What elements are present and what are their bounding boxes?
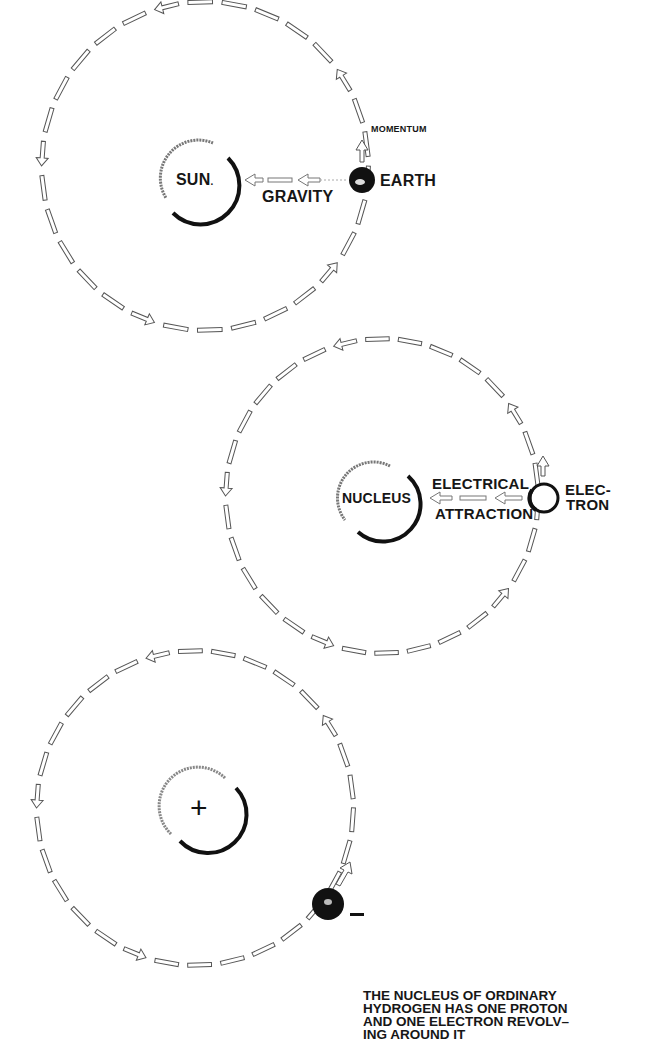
orbit-dash <box>303 348 326 362</box>
orbit-dash <box>352 98 364 123</box>
electron-label-line2: TRON <box>566 497 609 512</box>
orbit-dash <box>398 337 422 345</box>
orbit-dash <box>220 956 244 965</box>
orbit-dash <box>188 963 212 968</box>
orbit-direction-arrow-icon <box>122 943 149 963</box>
orbit-dash <box>71 906 90 926</box>
earth-label: EARTH <box>380 173 436 189</box>
orbit-dash <box>227 440 237 464</box>
orbit-dash <box>231 320 256 330</box>
orbit-dash <box>523 431 535 455</box>
orbit-dash <box>54 76 69 100</box>
orbit-dash <box>342 646 366 654</box>
solar-diagram <box>36 0 375 332</box>
orbit-dash <box>438 631 461 645</box>
orbit-dash <box>53 879 69 901</box>
orbit-direction-arrow-icon <box>31 784 45 808</box>
orbit-dash <box>94 27 116 45</box>
sun-label-dot: . <box>210 176 213 187</box>
orbit-direction-arrow-icon <box>332 335 358 352</box>
orbit-dash <box>115 660 138 674</box>
orbit-direction-arrow-icon <box>504 400 527 426</box>
orbit-dash <box>88 675 109 693</box>
nucleus-label: NUCLEUS <box>342 491 411 505</box>
orbit-dash <box>338 743 350 767</box>
orbit-dash <box>286 22 309 39</box>
electrical-label: ELECTRICAL <box>432 476 529 491</box>
orbit-dash <box>276 363 297 381</box>
orbit-dash <box>71 49 90 70</box>
orbit-dash <box>243 656 267 669</box>
orbit-direction-arrow-icon <box>220 472 234 496</box>
orbit-dash <box>77 269 97 290</box>
orbit-direction-arrow-icon <box>145 647 171 664</box>
orbit-dash <box>188 0 213 4</box>
caption-line: ING AROUND IT <box>363 1028 569 1041</box>
orbit-dash <box>38 752 49 776</box>
orbit-dash <box>341 232 356 256</box>
orbit-dash <box>350 808 356 832</box>
orbit-dash <box>300 690 319 710</box>
orbit-dash <box>430 344 453 357</box>
orbit-dash <box>294 287 316 305</box>
figure-caption: THE NUCLEUS OF ORDINARY HYDROGEN HAS ONE… <box>363 989 569 1041</box>
orbit-dash <box>252 943 275 957</box>
orbit-dash <box>155 958 179 966</box>
orbit-dash <box>467 611 488 629</box>
orbit-dash <box>45 209 57 234</box>
orbit-dash <box>254 384 272 405</box>
sun-label-text: SUN <box>176 171 210 188</box>
gravity-arrow <box>245 174 348 186</box>
orbit-direction-arrow-icon <box>332 66 355 93</box>
electron-minus-symbol <box>350 913 364 916</box>
attraction-arrow <box>430 492 522 504</box>
orbit-dash <box>222 1 247 9</box>
orbit-dash <box>459 358 481 375</box>
orbit-dash <box>485 378 504 398</box>
figure-canvas <box>0 0 655 1053</box>
orbit-direction-arrow-icon <box>129 307 156 327</box>
orbit-dash <box>273 670 295 687</box>
orbit-dash <box>35 817 42 841</box>
orbit-dash <box>348 775 355 799</box>
orbit-dash <box>197 328 222 333</box>
orbit-dash <box>255 8 279 21</box>
orbit-dash <box>407 644 431 653</box>
orbit-dash <box>281 924 302 942</box>
orbit-dash <box>260 594 279 614</box>
orbit-dash <box>375 651 399 656</box>
orbit-dash <box>366 337 390 342</box>
orbit-dash <box>48 722 63 745</box>
orbit-dash <box>122 11 146 25</box>
orbit-direction-arrow-icon <box>153 0 180 15</box>
sun-label: SUN. <box>176 172 213 188</box>
orbit-dash <box>512 559 527 582</box>
momentum-label: MOMENTUM <box>371 125 427 134</box>
orbit-dash <box>237 410 252 433</box>
gravity-label: GRAVITY <box>262 189 333 205</box>
orbit-dash <box>356 200 367 225</box>
orbit-dash <box>224 505 231 529</box>
orbit-dash <box>283 617 305 634</box>
orbit-direction-arrow-icon <box>317 259 342 286</box>
orbit-dash <box>264 307 288 321</box>
orbit-dash <box>40 849 52 873</box>
orbit-direction-arrow-icon <box>36 141 50 167</box>
orbit-dash <box>229 537 241 561</box>
orbit-dash <box>313 42 333 63</box>
orbit-dash <box>58 241 74 264</box>
orbit-dash <box>95 929 117 946</box>
orbit-dash <box>163 323 188 331</box>
orbit-dash <box>40 175 47 200</box>
orbit-dash <box>65 696 83 717</box>
orbit-dash <box>241 567 257 589</box>
orbit-dash <box>178 649 202 654</box>
orbit-dash <box>102 293 125 310</box>
electron-label-line1: ELEC- <box>565 482 611 497</box>
orbit-dash <box>341 840 352 864</box>
orbit-direction-arrow-icon <box>310 631 336 651</box>
orbit-dash <box>43 108 54 133</box>
orbit-dash <box>526 528 536 552</box>
orbit-dash <box>211 649 235 657</box>
proton-plus-symbol: + <box>190 793 208 823</box>
